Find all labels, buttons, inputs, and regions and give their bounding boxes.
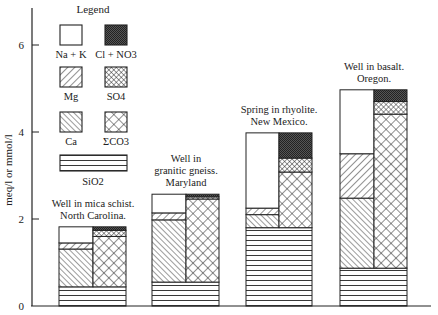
legend-label: Mg	[64, 91, 79, 102]
legend-title: Legend	[77, 3, 110, 15]
segment-sio2	[246, 228, 312, 306]
legend-swatch	[60, 155, 127, 171]
legend-item-so4: SO4	[105, 67, 127, 102]
segment--co3	[93, 236, 126, 286]
segment-na-k	[152, 194, 186, 213]
y-ticks: 0246	[19, 39, 40, 312]
segment-sio2	[340, 268, 407, 306]
legend: Legend Na + KCl + NO3MgSO4CaΣCO3SiO2	[56, 3, 137, 187]
legend-label: SO4	[107, 91, 126, 102]
segment-mg	[152, 213, 186, 220]
segment-mg	[246, 208, 279, 215]
segment-so4	[93, 230, 126, 236]
legend-item-sio2: SiO2	[60, 155, 127, 187]
y-tick-label: 2	[19, 213, 25, 225]
segment-mg	[340, 154, 374, 198]
bar-group: Well in mica schist.North Carolina.	[52, 198, 135, 306]
chart: 0246 meq/l or mmol/l Legend Na + KCl + N…	[0, 0, 438, 315]
legend-swatch	[105, 25, 127, 45]
y-tick-label: 0	[19, 300, 25, 312]
segment-sio2	[59, 287, 126, 306]
segment--co3	[279, 172, 312, 228]
legend-item-cl: Cl + NO3	[95, 25, 137, 60]
segment-so4	[279, 158, 312, 172]
segment-na-k	[59, 227, 93, 243]
legend-label: SiO2	[82, 176, 104, 187]
legend-swatch	[105, 112, 127, 132]
legend-swatch	[60, 67, 82, 87]
bar-label: Well in basalt.Oregon.	[344, 61, 404, 84]
bar-group: Well ingranitic gneiss.Maryland	[152, 153, 219, 306]
segment-ca	[246, 215, 279, 228]
legend-label: Na + K	[56, 49, 87, 60]
segment-na-k	[246, 133, 279, 208]
segment-so4	[374, 102, 407, 115]
legend-item-co3: ΣCO3	[103, 112, 129, 147]
legend-item-ca: Ca	[60, 112, 82, 147]
y-tick-label: 4	[19, 126, 25, 138]
segment-cl-no3	[186, 194, 219, 197]
y-axis-label: meq/l or mmol/l	[2, 134, 14, 206]
segment-cl-no3	[374, 90, 407, 102]
bars: Well in mica schist.North Carolina.Well …	[52, 61, 407, 306]
segment-cl-no3	[279, 133, 312, 158]
legend-swatch	[60, 112, 82, 132]
bar-label: Well in mica schist.North Carolina.	[52, 198, 135, 221]
legend-item-nak: Na + K	[56, 25, 87, 60]
segment-cl-no3	[93, 227, 126, 230]
legend-label: ΣCO3	[103, 136, 129, 147]
segment--co3	[374, 114, 407, 268]
segment-ca	[152, 220, 186, 282]
bar-label: Well ingranitic gneiss.Maryland	[154, 153, 218, 188]
segment-sio2	[152, 282, 219, 306]
segment-na-k	[340, 90, 374, 154]
segment-ca	[59, 249, 93, 287]
segment-mg	[59, 243, 93, 249]
bar-group: Well in basalt.Oregon.	[340, 61, 407, 306]
y-tick-label: 6	[19, 39, 25, 51]
segment-ca	[340, 198, 374, 268]
legend-swatch	[105, 67, 127, 87]
bar-label: Spring in rhyolite.New Mexico.	[241, 104, 318, 127]
bar-group: Spring in rhyolite.New Mexico.	[241, 104, 318, 306]
legend-label: Cl + NO3	[95, 49, 137, 60]
segment--co3	[186, 199, 219, 282]
legend-swatch	[60, 25, 82, 45]
legend-item-mg: Mg	[60, 67, 82, 102]
legend-label: Ca	[65, 136, 77, 147]
